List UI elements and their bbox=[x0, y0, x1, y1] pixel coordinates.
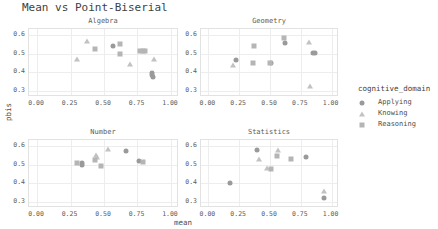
chart-root: Mean vs Point-Biserial AlgebraGeometryNu… bbox=[0, 0, 438, 229]
y-axis-label: pbis bbox=[4, 103, 13, 121]
gridline-horizontal bbox=[201, 183, 337, 184]
data-point-knowing bbox=[307, 83, 313, 88]
plot-area bbox=[200, 139, 338, 207]
data-point-knowing bbox=[306, 39, 312, 44]
gridline-horizontal bbox=[29, 91, 177, 92]
data-point-reasoning bbox=[250, 61, 255, 66]
data-point-reasoning bbox=[275, 154, 280, 159]
x-tick-label: 1.00 bbox=[323, 99, 339, 107]
y-tick-label: 0.4 bbox=[10, 178, 25, 186]
data-point-applying bbox=[228, 180, 233, 185]
y-tick-label: 0.3 bbox=[10, 197, 25, 205]
legend-marker-square-icon bbox=[360, 122, 365, 127]
x-tick-label: 0.25 bbox=[230, 210, 246, 218]
gridline-horizontal bbox=[201, 35, 337, 36]
x-tick-label: 0.75 bbox=[129, 99, 145, 107]
gridline-vertical bbox=[208, 29, 209, 95]
y-tick-label: 0.4 bbox=[182, 67, 197, 75]
facet-algebra: Algebra bbox=[28, 28, 178, 96]
legend-item-label: Applying bbox=[378, 97, 412, 108]
gridline-vertical bbox=[270, 140, 271, 206]
x-tick-label: 0.50 bbox=[95, 210, 111, 218]
gridline-vertical bbox=[239, 29, 240, 95]
gridline-horizontal bbox=[201, 91, 337, 92]
data-point-reasoning bbox=[118, 42, 123, 47]
x-tick-label: 0.25 bbox=[230, 99, 246, 107]
facet-geometry: Geometry bbox=[200, 28, 338, 96]
y-tick-label: 0.5 bbox=[182, 49, 197, 57]
data-point-reasoning bbox=[281, 36, 286, 41]
legend-marker-circle-icon bbox=[360, 100, 365, 105]
y-tick-label: 0.6 bbox=[182, 141, 197, 149]
y-tick-label: 0.4 bbox=[10, 67, 25, 75]
y-tick-label: 0.6 bbox=[10, 30, 25, 38]
x-tick-label: 0.75 bbox=[129, 210, 145, 218]
x-tick-label: 0.00 bbox=[28, 99, 44, 107]
data-point-applying bbox=[123, 149, 128, 154]
gridline-horizontal bbox=[29, 183, 177, 184]
gridline-vertical bbox=[137, 29, 138, 95]
data-point-knowing bbox=[127, 61, 133, 66]
data-point-knowing bbox=[321, 189, 327, 194]
gridline-vertical bbox=[71, 29, 72, 95]
gridline-vertical bbox=[332, 140, 333, 206]
y-tick-label: 0.3 bbox=[182, 197, 197, 205]
data-point-knowing bbox=[84, 38, 90, 43]
y-tick-label: 0.6 bbox=[10, 141, 25, 149]
gridline-horizontal bbox=[201, 202, 337, 203]
data-point-applying bbox=[283, 41, 288, 46]
facet-statistics: Statistics bbox=[200, 139, 338, 207]
legend-item-label: Knowing bbox=[378, 108, 408, 119]
facet-title: Number bbox=[28, 128, 178, 136]
data-point-reasoning bbox=[269, 166, 274, 171]
data-point-reasoning bbox=[92, 158, 97, 163]
facet-title: Statistics bbox=[200, 128, 338, 136]
y-tick-label: 0.5 bbox=[182, 160, 197, 168]
y-tick-label: 0.5 bbox=[10, 49, 25, 57]
gridline-vertical bbox=[171, 29, 172, 95]
data-point-reasoning bbox=[289, 157, 294, 162]
gridline-vertical bbox=[71, 140, 72, 206]
gridline-vertical bbox=[239, 140, 240, 206]
data-point-applying bbox=[151, 74, 156, 79]
x-tick-label: 0.50 bbox=[95, 99, 111, 107]
plot-area bbox=[28, 28, 178, 96]
x-tick-label: 0.75 bbox=[292, 210, 308, 218]
data-point-reasoning bbox=[74, 160, 79, 165]
data-point-knowing bbox=[256, 156, 262, 161]
x-tick-label: 0.50 bbox=[261, 99, 277, 107]
data-point-applying bbox=[313, 50, 318, 55]
x-axis-label: mean bbox=[174, 218, 192, 227]
data-point-reasoning bbox=[118, 52, 123, 57]
y-tick-label: 0.3 bbox=[10, 86, 25, 94]
x-tick-label: 1.00 bbox=[162, 210, 178, 218]
y-tick-label: 0.4 bbox=[182, 178, 197, 186]
x-tick-label: 1.00 bbox=[162, 99, 178, 107]
gridline-horizontal bbox=[29, 146, 177, 147]
gridline-vertical bbox=[301, 140, 302, 206]
gridline-vertical bbox=[37, 29, 38, 95]
x-tick-label: 0.25 bbox=[62, 99, 78, 107]
x-tick-label: 0.75 bbox=[292, 99, 308, 107]
chart-title: Mean vs Point-Biserial bbox=[22, 1, 168, 14]
x-tick-label: 1.00 bbox=[323, 210, 339, 218]
y-tick-label: 0.6 bbox=[182, 30, 197, 38]
gridline-horizontal bbox=[201, 72, 337, 73]
data-point-reasoning bbox=[268, 60, 273, 65]
x-tick-label: 0.25 bbox=[62, 210, 78, 218]
gridline-horizontal bbox=[29, 54, 177, 55]
data-point-knowing bbox=[74, 57, 80, 62]
data-point-reasoning bbox=[142, 49, 147, 54]
data-point-knowing bbox=[151, 57, 157, 62]
data-point-applying bbox=[255, 147, 260, 152]
legend-marker-triangle-icon bbox=[359, 111, 365, 116]
gridline-horizontal bbox=[29, 35, 177, 36]
plot-area bbox=[200, 28, 338, 96]
gridline-horizontal bbox=[201, 146, 337, 147]
y-tick-label: 0.3 bbox=[182, 86, 197, 94]
data-point-applying bbox=[304, 154, 309, 159]
x-tick-label: 0.00 bbox=[200, 99, 216, 107]
data-point-knowing bbox=[230, 62, 236, 67]
gridline-vertical bbox=[332, 29, 333, 95]
x-tick-label: 0.50 bbox=[261, 210, 277, 218]
